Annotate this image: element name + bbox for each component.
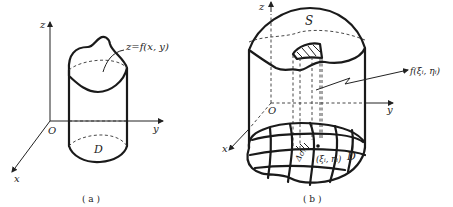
- value-label-b: f(ξᵢ, ηᵢ): [409, 66, 441, 76]
- x-axis-a: [12, 121, 50, 172]
- origin-label-b: O: [268, 105, 276, 116]
- surface-label-b: S: [305, 14, 313, 28]
- caption-a: ( a ): [82, 194, 100, 204]
- region-label-a: D: [93, 143, 103, 156]
- x-label-b: x: [222, 143, 228, 154]
- z-label-a: z: [39, 19, 46, 30]
- origin-label-a: O: [48, 125, 56, 136]
- caption-b: ( b ): [303, 194, 322, 204]
- sample-point: [316, 144, 320, 148]
- double-integral-figure: z O y x z=f(x, y) D ( a ): [0, 0, 453, 207]
- point-label-b: (ξᵢ, ηᵢ): [316, 154, 341, 164]
- x-label-a: x: [14, 173, 20, 184]
- x-axis-b: [229, 130, 248, 150]
- y-label-b: y: [386, 104, 393, 115]
- surface-label-a: z=f(x, y): [125, 41, 169, 52]
- region-label-b: D: [346, 150, 356, 163]
- y-label-a: y: [152, 123, 159, 134]
- z-label-b: z: [258, 1, 265, 12]
